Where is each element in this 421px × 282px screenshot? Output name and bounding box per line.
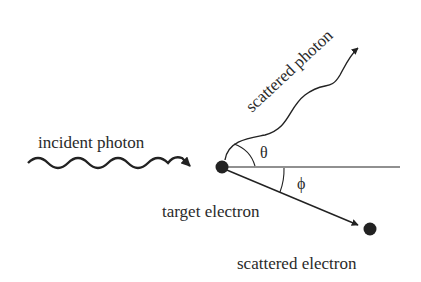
scattered-electron-dot xyxy=(364,223,377,236)
scattered-photon-label: scattered photon xyxy=(242,25,337,116)
target-electron-label: target electron xyxy=(162,202,260,221)
scattered-electron-label: scattered electron xyxy=(237,254,357,273)
compton-scattering-diagram: incident photon target electron scattere… xyxy=(0,0,421,282)
theta-angle-arc xyxy=(234,144,255,166)
incident-photon-wave xyxy=(28,157,190,168)
incident-photon-label: incident photon xyxy=(38,133,145,152)
target-electron-dot xyxy=(216,161,229,174)
phi-angle-arc xyxy=(280,168,284,192)
theta-label: θ xyxy=(260,144,268,161)
diagram-canvas: incident photon target electron scattere… xyxy=(0,0,421,282)
phi-label: ϕ xyxy=(297,175,305,193)
